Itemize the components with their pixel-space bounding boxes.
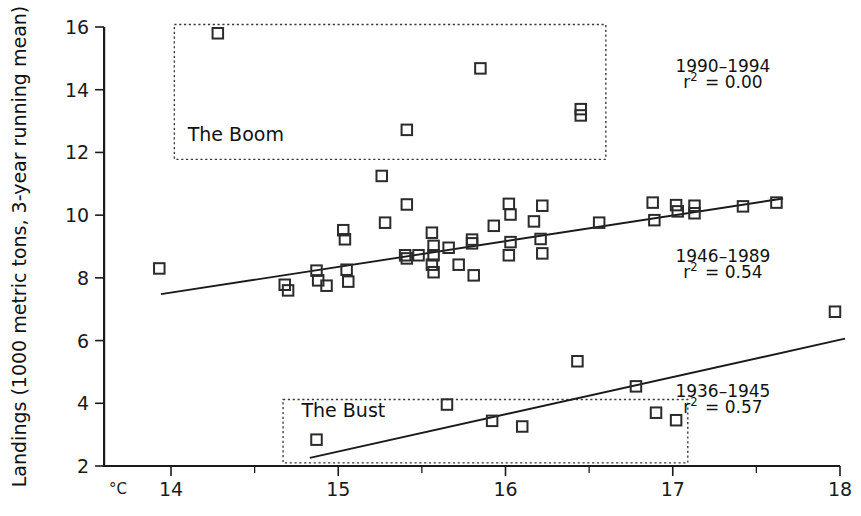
data-point-marker (442, 399, 453, 410)
plot-canvas: 2468101214161415161718°CLandings (1000 m… (0, 0, 861, 516)
data-point-marker (572, 356, 583, 367)
data-point-marker (649, 215, 660, 226)
data-point-marker (504, 199, 514, 210)
annotation-boxes-layer (174, 24, 687, 462)
data-point-marker (504, 250, 514, 261)
data-point-marker (505, 209, 515, 220)
data-point-marker (343, 276, 354, 287)
data-point-marker (689, 200, 700, 211)
data-point-marker (376, 171, 387, 182)
series-annotation-rsquared: r2 = 0.57 (683, 395, 762, 417)
data-point-marker (453, 259, 464, 270)
y-tick-label-14: 14 (65, 79, 89, 101)
data-point-marker (738, 201, 749, 212)
x-tick-label-15: 15 (326, 478, 350, 500)
data-point-marker (830, 306, 841, 317)
data-point-marker (576, 104, 587, 115)
x-tick-label-16: 16 (493, 478, 517, 500)
y-tick-label-16: 16 (65, 16, 89, 38)
y-tick-label-8: 8 (77, 267, 89, 289)
data-point-marker (402, 199, 413, 210)
y-tick-label-6: 6 (77, 330, 89, 352)
data-point-marker (651, 407, 662, 418)
box-caption-the-bust: The Bust (300, 399, 385, 421)
data-point-marker (154, 263, 165, 274)
x-tick-label-18: 18 (828, 478, 852, 500)
regression-lines-layer (161, 199, 845, 458)
data-point-marker (468, 270, 479, 281)
data-point-marker (537, 248, 548, 258)
x-tick-label-14: 14 (159, 478, 183, 500)
data-point-marker (489, 221, 500, 232)
data-point-marker (213, 28, 224, 39)
data-point-marker (475, 63, 486, 74)
data-point-marker (427, 227, 438, 238)
data-point-marker (311, 434, 322, 445)
y-tick-label-12: 12 (65, 141, 89, 163)
data-point-marker (647, 197, 658, 208)
data-point-marker (505, 237, 515, 248)
data-point-marker (529, 216, 540, 227)
series-annotation-rsquared: r2 = 0.00 (683, 70, 762, 92)
x-tick-label-17: 17 (661, 478, 685, 500)
x-axis-unit-label: °C (109, 480, 127, 498)
y-tick-label-2: 2 (77, 455, 89, 477)
data-point-marker (380, 217, 391, 228)
data-point-marker (402, 125, 413, 136)
data-point-marker (576, 110, 587, 121)
data-point-marker (517, 421, 528, 432)
y-tick-label-10: 10 (65, 204, 89, 226)
data-point-marker (467, 234, 478, 245)
scatter-plot-figure: 2468101214161415161718°CLandings (1000 m… (0, 0, 861, 516)
data-point-marker (671, 415, 682, 426)
data-point-marker (537, 200, 548, 211)
box-caption-the-boom: The Boom (187, 123, 284, 145)
y-axis-title: Landings (1000 metric tons, 3-year runni… (8, 6, 30, 487)
series-annotation-rsquared: r2 = 0.54 (683, 260, 762, 282)
y-tick-label-4: 4 (77, 392, 89, 414)
